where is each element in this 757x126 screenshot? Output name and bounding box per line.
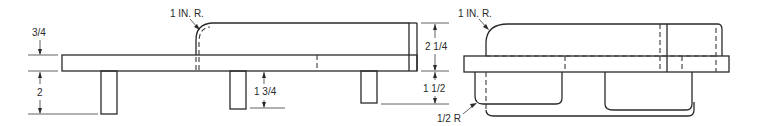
front-view: 3/4 2 1 IN. R. 1 3/4 2 1/4 1 1/2 [28,8,449,114]
dim-seat-thickness: 3/4 [32,27,46,38]
technical-drawing: 3/4 2 1 IN. R. 1 3/4 2 1/4 1 1/2 [0,0,757,126]
dim-leg-left: 2 [37,87,43,98]
leg-middle [230,71,246,109]
dim-back-height: 2 1/4 [425,41,448,52]
leg-right [361,71,377,103]
label-back-radius: 1 IN. R. [170,8,204,19]
back-rest [196,23,409,55]
side-back-rest [486,24,722,56]
side-seat-board [464,56,729,72]
side-leg-right [605,72,692,110]
dim-leg-middle: 1 3/4 [254,86,277,97]
seat-board [62,55,417,71]
dim-leg-right: 1 1/2 [423,83,446,94]
side-leg-left [475,72,562,104]
side-view: 1 IN. R. 1/2 R [437,8,729,124]
label-side-bottom-radius: 1/2 R [437,113,461,124]
label-side-top-radius: 1 IN. R. [458,8,492,19]
leg-left [101,71,117,114]
